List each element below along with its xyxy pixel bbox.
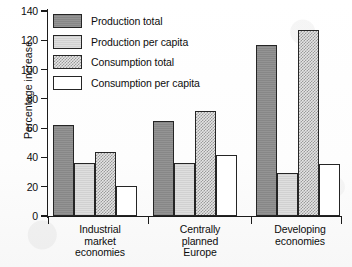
category-label-line: Developing — [250, 224, 350, 236]
bar — [116, 186, 137, 216]
legend-swatch — [53, 76, 82, 90]
category-label-line: economies — [250, 236, 350, 248]
category-label: CentrallyplannedEurope — [150, 224, 250, 259]
y-axis-tick — [41, 40, 47, 41]
bar — [319, 164, 340, 216]
y-axis-tick-label: 0 — [0, 211, 38, 221]
bar — [277, 173, 298, 216]
category-label-line: Europe — [150, 247, 250, 259]
y-axis-tick — [41, 128, 47, 129]
category-label: Industrialmarketeconomies — [50, 224, 150, 259]
bar — [53, 125, 74, 216]
x-axis-line — [47, 216, 342, 217]
y-axis-tick — [41, 215, 47, 216]
bar — [153, 121, 174, 216]
y-axis-tick-label: 120 — [0, 35, 38, 45]
y-axis-tick — [41, 186, 47, 187]
bar — [74, 163, 95, 216]
y-axis-tick-label: 80 — [0, 94, 38, 104]
category-separator-tick — [48, 217, 49, 224]
legend-swatch — [53, 55, 82, 69]
category-separator-tick — [148, 217, 149, 224]
y-axis-tick-label: 140 — [0, 6, 38, 16]
y-axis-tick — [41, 10, 47, 11]
y-axis-tick — [41, 69, 47, 70]
legend-label: Consumption per capita — [91, 77, 200, 89]
y-axis-tick-label: 60 — [0, 123, 38, 133]
y-axis-tick-label: 20 — [0, 182, 38, 192]
bar-chart-figure: Percentage increase 020406080100120140 I… — [0, 0, 352, 267]
bar — [174, 163, 195, 216]
category-label-line: Industrial — [50, 224, 150, 236]
y-axis-tick-label: 40 — [0, 152, 38, 162]
bar — [256, 45, 277, 216]
category-label: Developingeconomies — [250, 224, 350, 247]
y-axis-tick — [41, 157, 47, 158]
bar — [95, 152, 116, 216]
bar — [298, 30, 319, 216]
legend-label: Production per capita — [91, 36, 188, 48]
category-separator-tick — [251, 217, 252, 224]
y-axis-tick — [41, 98, 47, 99]
legend-label: Consumption total — [91, 56, 174, 68]
y-axis-tick-label: 100 — [0, 65, 38, 75]
legend-swatch — [53, 35, 82, 49]
bar — [195, 111, 216, 216]
legend-swatch — [53, 14, 82, 28]
category-separator-tick — [341, 217, 342, 224]
category-label-line: economies — [50, 247, 150, 259]
legend-label: Production total — [91, 15, 162, 27]
bar — [216, 155, 237, 217]
category-label-line: Centrally — [150, 224, 250, 236]
